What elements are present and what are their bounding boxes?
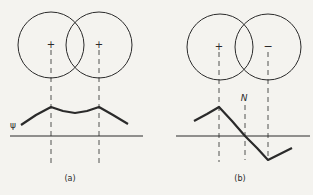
psi-axis-label: ψ [10,120,16,130]
panel-a [10,12,143,167]
wavefunction-curve [21,107,128,125]
sign-label-left: + [47,39,55,50]
sign-label-right: − [263,40,272,53]
node-label: N [241,93,248,103]
sign-label-left: + [215,41,223,52]
orbital-diagram: + + ψ (a) + − N (b) [0,0,313,195]
caption-a: (a) [64,174,75,183]
wavefunction-curve [194,107,292,160]
caption-b: (b) [234,174,245,183]
panel-b [176,14,310,162]
sign-label-right: + [95,39,103,50]
